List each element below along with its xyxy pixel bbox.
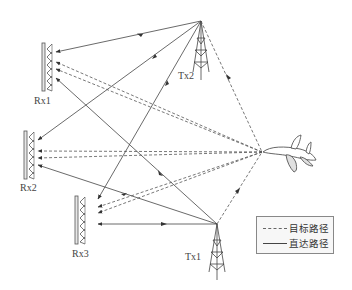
solid-line-swatch — [263, 243, 287, 244]
rx2-label: Rx2 — [20, 182, 37, 193]
legend: 目标路径 直达路径 — [256, 216, 334, 254]
legend-target-path-label: 目标路径 — [289, 221, 329, 235]
tx1-tower-icon — [209, 224, 225, 280]
dashed-line-swatch — [263, 228, 287, 229]
tx1-label: Tx1 — [185, 251, 201, 262]
legend-direct-path: 直达路径 — [263, 237, 329, 249]
rx1-label: Rx1 — [34, 95, 51, 106]
rx3-antenna-array — [75, 196, 85, 244]
target-airplane-icon — [263, 135, 316, 172]
rx3-label: Rx3 — [72, 248, 89, 259]
legend-direct-path-label: 直达路径 — [289, 236, 329, 250]
tx2-tower-icon — [193, 21, 209, 80]
direct-paths — [38, 21, 217, 224]
rx2-antenna-array — [24, 131, 34, 179]
tx2-label: Tx2 — [178, 70, 194, 81]
target-paths — [38, 21, 262, 224]
legend-target-path: 目标路径 — [263, 222, 329, 234]
target-path-mid-arrows — [226, 74, 240, 194]
rx1-antenna-array — [42, 43, 52, 91]
